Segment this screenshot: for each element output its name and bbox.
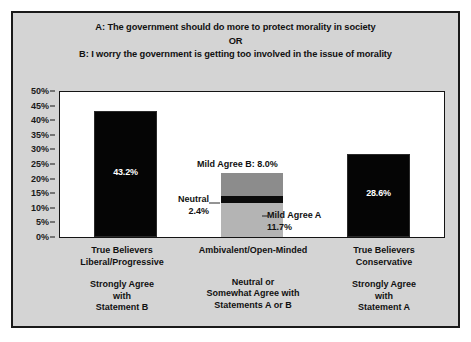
y-tick-mark-10 (50, 207, 55, 208)
x-category-ambivalent-desc: Neutral or Somewhat Agree with Statement… (184, 277, 322, 312)
y-tick-label-20: 20% (31, 174, 49, 184)
x-category-liberal-desc1: Strongly Agree (53, 279, 191, 291)
y-axis: 50% 45% 40% 35% 30% 25% 20% 15% 10% 5% 0… (13, 85, 55, 245)
y-tick-label-5: 5% (36, 217, 49, 227)
x-category-liberal-line1: True Believers (53, 245, 191, 257)
y-tick-label-25: 25% (31, 159, 49, 169)
y-tick-mark-30 (50, 149, 55, 150)
annotation-neutral-label: Neutral (178, 194, 209, 204)
x-category-liberal-desc2: with (53, 291, 191, 303)
y-tick-label-35: 35% (31, 130, 49, 140)
annotation-mild-agree-a-label: Mild Agree A (267, 210, 321, 220)
chart-title: A: The government should do more to prot… (13, 21, 458, 62)
y-tick-mark-5 (50, 222, 55, 223)
x-category-ambivalent-line1: Ambivalent/Open-Minded (184, 245, 322, 257)
annotation-neutral-value: 2.4% (188, 206, 209, 216)
y-tick-mark-20 (50, 178, 55, 179)
y-tick-label-40: 40% (31, 115, 49, 125)
annotation-mild-agree-a-value: 11.7% (267, 222, 292, 232)
x-category-liberal: True Believers Liberal/Progressive Stron… (53, 245, 191, 314)
x-category-ambivalent: Ambivalent/Open-Minded Neutral or Somewh… (184, 245, 322, 311)
x-axis-labels: True Believers Liberal/Progressive Stron… (53, 245, 453, 325)
y-tick-mark-15 (50, 193, 55, 194)
x-category-conservative: True Believers Conservative Strongly Agr… (315, 245, 453, 314)
x-category-conservative-desc1: Strongly Agree (315, 279, 453, 291)
bar-value-label-conservative: 28.6% (348, 188, 409, 198)
chart-title-line-2: OR (13, 35, 458, 49)
bar-true-believers-liberal[interactable]: 43.2% (94, 111, 157, 237)
chart-title-line-1: A: The government should do more to prot… (13, 21, 458, 35)
x-category-ambivalent-desc3: Statements A or B (184, 300, 322, 312)
x-category-conservative-line2: Conservative (315, 257, 453, 269)
x-category-conservative-desc2: with (315, 291, 453, 303)
y-tick-label-45: 45% (31, 101, 49, 111)
y-tick-mark-35 (50, 134, 55, 135)
x-category-liberal-line2: Liberal/Progressive (53, 257, 191, 269)
annotation-neutral: Neutral 2.4% (153, 194, 209, 217)
chart-title-line-3: B: I worry the government is getting too… (13, 48, 458, 62)
y-tick-mark-45 (50, 105, 55, 106)
annotation-mild-agree-b: Mild Agree B: 8.0% (197, 159, 278, 171)
x-category-liberal-desc3: Statement B (53, 302, 191, 314)
x-category-ambivalent-desc2: Somewhat Agree with (184, 288, 322, 300)
y-tick-label-10: 10% (31, 203, 49, 213)
bar-column-true-believers-conservative: 28.6% (347, 92, 410, 237)
x-category-conservative-line1: True Believers (315, 245, 453, 257)
segment-neutral[interactable] (221, 196, 283, 203)
x-category-ambivalent-desc1: Neutral or (184, 277, 322, 289)
bar-column-true-believers-liberal: 43.2% (94, 92, 157, 237)
y-tick-mark-40 (50, 120, 55, 121)
y-tick-label-50: 50% (31, 86, 49, 96)
chart-figure: A: The government should do more to prot… (11, 11, 460, 328)
y-tick-label-30: 30% (31, 144, 49, 154)
bar-value-label-liberal: 43.2% (95, 167, 156, 177)
x-category-conservative-desc3: Statement A (315, 302, 453, 314)
y-tick-mark-0 (50, 237, 55, 238)
bar-true-believers-conservative[interactable]: 28.6% (347, 154, 410, 238)
y-tick-label-0: 0% (36, 232, 49, 242)
x-category-liberal-desc: Strongly Agree with Statement B (53, 279, 191, 314)
y-tick-mark-50 (50, 91, 55, 92)
y-tick-mark-25 (50, 164, 55, 165)
x-category-conservative-desc: Strongly Agree with Statement A (315, 279, 453, 314)
annotation-mild-agree-a: Mild Agree A 11.7% (267, 210, 321, 233)
segment-mild-agree-b[interactable] (221, 173, 283, 196)
y-tick-label-15: 15% (31, 188, 49, 198)
